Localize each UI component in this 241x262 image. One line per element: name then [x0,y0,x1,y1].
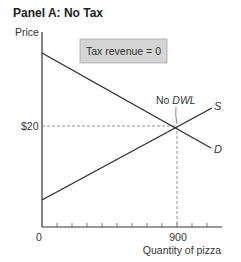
x-axis-label: Quantity of pizza [143,244,221,256]
no-dwl-pointer [176,107,177,124]
quantity-tick-label: 900 [169,231,187,243]
origin-label: 0 [36,231,42,243]
tax-revenue-label: Tax revenue = 0 [86,45,161,57]
price-tick-label: $20 [21,120,39,132]
supply-label: S [214,100,222,112]
supply-curve [42,108,212,200]
chart: Tax revenue = 0 Price $20 0 900 Quantity… [0,0,241,262]
y-axis-label: Price [15,26,39,38]
no-dwl-label: No DWL [156,94,196,106]
demand-label: D [214,143,222,155]
